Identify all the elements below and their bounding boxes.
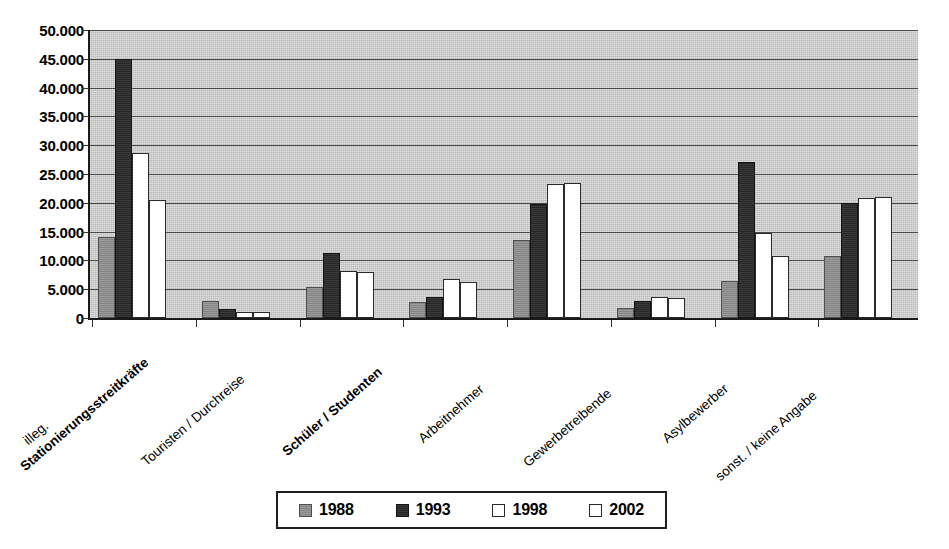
legend-label-1998: 1998 (512, 501, 547, 519)
x-axis-tick-mark (715, 320, 716, 327)
y-axis-tick-label: 0 (6, 311, 84, 326)
legend-swatch-1988-icon (299, 504, 312, 517)
y-axis-tick-label: 45.000 (6, 51, 84, 66)
legend-swatch-1993-icon (396, 504, 409, 517)
y-axis-tick-label: 15.000 (6, 224, 84, 239)
gridline (90, 289, 918, 290)
bar-1988-8 (824, 256, 841, 318)
x-axis-category-label: Schüler / Studenten (280, 365, 385, 458)
bar-1993-5 (530, 204, 547, 318)
legend-label-1988: 1988 (319, 501, 354, 519)
gridline (90, 30, 918, 31)
legend-label-1993: 1993 (416, 501, 451, 519)
y-axis-tick-label: 50.000 (6, 23, 84, 38)
legend-item-1993[interactable]: 1993 (396, 501, 451, 519)
gridline (90, 88, 918, 89)
x-axis-category-label: Asylbewerber (660, 382, 731, 446)
y-axis-tick-label: 35.000 (6, 109, 84, 124)
bar-chart: 05.00010.00015.00020.00025.00030.00035.0… (0, 0, 949, 549)
legend-swatch-1998-icon (492, 504, 505, 517)
gridline (90, 116, 918, 117)
bar-2002-5 (564, 183, 581, 318)
gridline (90, 59, 918, 60)
gridline (90, 260, 918, 261)
y-axis-tick-label: 30.000 (6, 138, 84, 153)
x-axis-tick-mark (818, 320, 819, 327)
legend-label-2002: 2002 (609, 501, 644, 519)
bar-1998-3 (340, 271, 357, 318)
bar-1988-5 (513, 240, 530, 318)
gridline (90, 145, 918, 146)
bar-1998-4 (443, 279, 460, 318)
x-axis-line (88, 318, 918, 320)
bar-1998-1 (132, 153, 149, 318)
bar-2002-1 (149, 200, 166, 318)
plot-area (88, 30, 918, 318)
bar-2002-3 (357, 272, 374, 318)
legend-item-1988[interactable]: 1988 (299, 501, 354, 519)
bar-1993-4 (426, 297, 443, 318)
y-axis-tick-label: 5.000 (6, 282, 84, 297)
legend-item-1998[interactable]: 1998 (492, 501, 547, 519)
legend-item-2002[interactable]: 2002 (589, 501, 644, 519)
x-axis-tick-mark (300, 320, 301, 327)
bar-1993-2 (219, 309, 236, 318)
bar-1993-7 (738, 162, 755, 318)
bar-1998-5 (547, 184, 564, 318)
x-axis-tick-mark (611, 320, 612, 327)
x-axis-tick-mark (92, 320, 93, 327)
x-axis-category-label: sonst. / keine Angabe (713, 389, 819, 484)
x-axis-tick-mark (403, 320, 404, 327)
bar-1988-2 (202, 301, 219, 318)
bar-1988-4 (409, 302, 426, 318)
bar-2002-7 (772, 256, 789, 318)
y-axis-tick-label: 20.000 (6, 195, 84, 210)
bar-1998-8 (858, 198, 875, 318)
bar-1993-8 (841, 203, 858, 318)
bar-1988-3 (306, 287, 323, 318)
x-axis-category-label: Gewerbetreibende (521, 386, 614, 469)
y-axis-tick-label: 10.000 (6, 253, 84, 268)
gridline (90, 232, 918, 233)
x-axis-category-label: Arbeitnehmer (416, 382, 486, 445)
bar-1988-7 (721, 281, 738, 318)
bar-1998-7 (755, 233, 772, 318)
x-axis-tick-mark (196, 320, 197, 327)
bar-1993-3 (323, 253, 340, 318)
bar-1998-6 (651, 297, 668, 318)
y-axis-tick-label: 40.000 (6, 80, 84, 95)
bar-2002-6 (668, 298, 685, 318)
y-axis-tick-label: 25.000 (6, 167, 84, 182)
x-axis-tick-mark (507, 320, 508, 327)
gridline (90, 174, 918, 175)
bar-1988-6 (617, 308, 634, 318)
bar-2002-4 (460, 282, 477, 318)
bar-1988-1 (98, 237, 115, 318)
bar-1993-1 (115, 59, 132, 318)
y-axis: 05.00010.00015.00020.00025.00030.00035.0… (0, 0, 84, 549)
bar-1993-6 (634, 301, 651, 318)
chart-legend: 1988 1993 1998 2002 (276, 491, 667, 529)
legend-swatch-2002-icon (589, 504, 602, 517)
bar-2002-8 (875, 197, 892, 318)
x-axis-category-label: Touristen / Durchreise (139, 372, 247, 468)
gridline (90, 203, 918, 204)
